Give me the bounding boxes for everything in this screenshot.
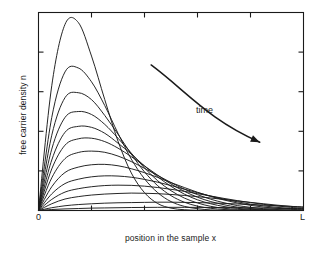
time-annotation-label: time	[196, 105, 213, 115]
density-curve	[39, 92, 304, 210]
x-tick-label-origin: 0	[36, 212, 41, 222]
density-curve	[39, 17, 304, 210]
density-curve	[39, 138, 304, 211]
x-axis-label: position in the sample x	[38, 233, 303, 243]
chart-canvas	[0, 0, 328, 255]
y-axis-label: free carrier density n	[18, 45, 28, 185]
time-arrow-head	[250, 135, 260, 142]
time-arrow-annotation	[151, 65, 260, 142]
time-arrow-curve	[151, 65, 260, 142]
carrier-density-curves	[39, 17, 304, 210]
x-tick-label-length: L	[300, 212, 305, 222]
figure-container: free carrier density n position in the s…	[0, 0, 328, 255]
